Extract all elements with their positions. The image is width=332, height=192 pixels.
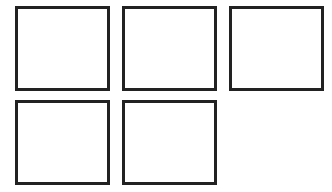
box-1 (15, 6, 110, 91)
box-grid (15, 6, 324, 185)
box-3 (229, 6, 324, 91)
box-2 (122, 6, 217, 91)
box-4 (15, 100, 110, 185)
box-5 (122, 100, 217, 185)
